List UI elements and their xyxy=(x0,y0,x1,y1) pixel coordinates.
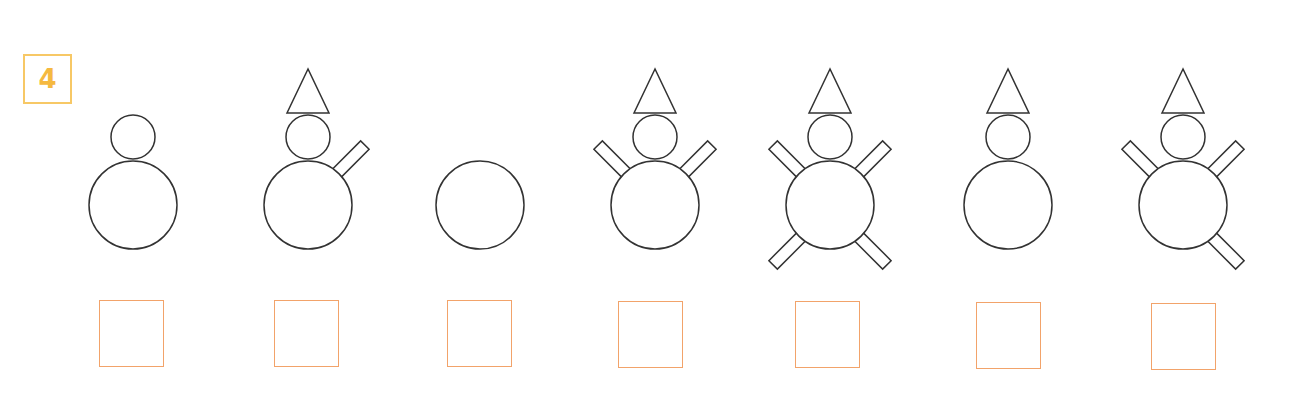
head-circle xyxy=(111,115,155,159)
body-circle xyxy=(1139,161,1227,249)
snowman-figure xyxy=(769,69,891,269)
hat-triangle xyxy=(987,69,1029,113)
hat-triangle xyxy=(1162,69,1204,113)
hat-triangle xyxy=(287,69,329,113)
head-circle xyxy=(633,115,677,159)
answer-box[interactable] xyxy=(447,300,512,367)
answer-box[interactable] xyxy=(1151,303,1216,370)
answer-box[interactable] xyxy=(274,300,339,367)
hat-triangle xyxy=(634,69,676,113)
head-circle xyxy=(1161,115,1205,159)
body-circle xyxy=(436,161,524,249)
body-circle xyxy=(264,161,352,249)
body-circle xyxy=(611,161,699,249)
head-circle xyxy=(986,115,1030,159)
answer-box[interactable] xyxy=(795,301,860,368)
snowman-figure xyxy=(594,69,716,249)
snowman-figure xyxy=(1122,69,1244,269)
snowman-figure xyxy=(436,161,524,249)
head-circle xyxy=(286,115,330,159)
snowman-figure xyxy=(964,69,1052,249)
answer-box[interactable] xyxy=(618,301,683,368)
answer-box[interactable] xyxy=(976,302,1041,369)
snowman-figure xyxy=(89,115,177,249)
head-circle xyxy=(808,115,852,159)
body-circle xyxy=(964,161,1052,249)
answer-box[interactable] xyxy=(99,300,164,367)
snowman-figure xyxy=(264,69,369,249)
body-circle xyxy=(786,161,874,249)
hat-triangle xyxy=(809,69,851,113)
body-circle xyxy=(89,161,177,249)
